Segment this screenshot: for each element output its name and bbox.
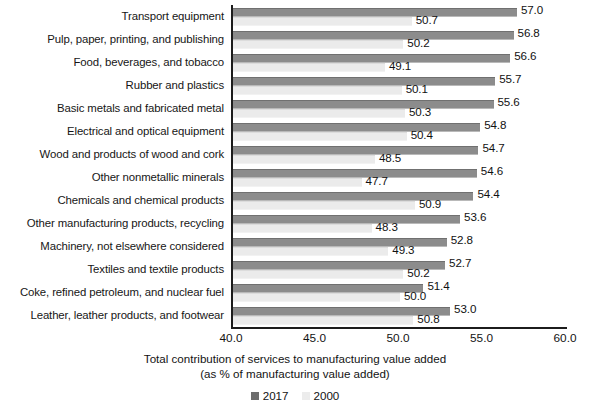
x-axis-title: Total contribution of services to manufa…: [0, 352, 590, 381]
bar-value-label-2000: 50.1: [406, 82, 428, 95]
bar-2000: [233, 247, 388, 256]
bar-value-label-2000: 50.9: [419, 197, 441, 210]
category-label: Other manufacturing products, recycling: [0, 212, 229, 235]
bar-2017: [233, 146, 478, 155]
bar-2000: [233, 293, 400, 302]
bar-value-label-2000: 50.3: [409, 105, 431, 118]
bar-value-label-2017: 57.0: [521, 3, 543, 16]
plot-area: 57.050.756.850.256.649.155.750.155.650.3…: [231, 5, 567, 329]
bar-2000: [233, 17, 412, 26]
bar-value-label-2000: 50.8: [417, 312, 439, 325]
bar-2000: [233, 178, 362, 187]
bar-2017: [233, 123, 480, 132]
bar-group: 52.849.3: [233, 235, 567, 258]
bar-2000: [233, 316, 413, 325]
category-label: Food, beverages, and tobacco: [0, 51, 229, 74]
bar-value-label-2017: 52.8: [451, 233, 473, 246]
bar-2000: [233, 270, 403, 279]
bar-2017: [233, 100, 494, 109]
bar-value-label-2000: 47.7: [366, 174, 388, 187]
bar-2017: [233, 54, 510, 63]
bar-2017: [233, 238, 447, 247]
legend-label: 2017: [263, 389, 289, 402]
bar-value-label-2000: 49.3: [392, 243, 414, 256]
bar-value-label-2017: 56.8: [518, 26, 540, 39]
category-label: Leather, leather products, and footwear: [0, 304, 229, 327]
bar-group: 54.450.9: [233, 189, 567, 212]
category-label: Machinery, not elsewhere considered: [0, 235, 229, 258]
bar-value-label-2017: 55.7: [499, 72, 521, 85]
bar-value-label-2017: 52.7: [449, 256, 471, 269]
bar-value-label-2017: 55.6: [498, 95, 520, 108]
bar-group: 55.750.1: [233, 74, 567, 97]
bar-2017: [233, 31, 514, 40]
category-label: Textiles and textile products: [0, 258, 229, 281]
legend-label: 2000: [314, 389, 340, 402]
legend-item-2017[interactable]: 2017: [251, 389, 289, 402]
bar-group: 55.650.3: [233, 97, 567, 120]
category-label: Electrical and optical equipment: [0, 120, 229, 143]
bar-2000: [233, 132, 407, 141]
x-axis-title-line2: (as % of manufacturing value added): [0, 367, 590, 382]
bar-2017: [233, 169, 477, 178]
bar-value-label-2017: 56.6: [514, 49, 536, 62]
legend-item-2000[interactable]: 2000: [302, 389, 340, 402]
category-label: Basic metals and fabricated metal: [0, 97, 229, 120]
bar-value-label-2017: 51.4: [427, 279, 449, 292]
bar-value-label-2000: 48.5: [379, 151, 401, 164]
bar-group: 56.649.1: [233, 51, 567, 74]
x-tick-label: 50.0: [387, 331, 410, 345]
bar-value-label-2017: 53.0: [454, 302, 476, 315]
bar-2017: [233, 8, 517, 17]
bar-group: 53.050.8: [233, 304, 567, 327]
bar-2000: [233, 201, 415, 210]
bar-group: 54.647.7: [233, 166, 567, 189]
bar-group: 53.648.3: [233, 212, 567, 235]
bar-2000: [233, 224, 372, 233]
x-axis-tick-labels: 40.045.050.055.060.0: [231, 331, 565, 349]
bar-2000: [233, 155, 375, 164]
bar-value-label-2017: 53.6: [464, 210, 486, 223]
bar-value-label-2017: 54.6: [481, 164, 503, 177]
x-tick-label: 55.0: [470, 331, 493, 345]
bar-value-label-2000: 50.2: [407, 36, 429, 49]
bar-2000: [233, 86, 402, 95]
x-tick-label: 40.0: [220, 331, 243, 345]
bar-group: 54.850.4: [233, 120, 567, 143]
bar-value-label-2017: 54.8: [484, 118, 506, 131]
category-label: Chemicals and chemical products: [0, 189, 229, 212]
bar-2017: [233, 284, 423, 293]
bar-value-label-2017: 54.7: [482, 141, 504, 154]
category-label: Transport equipment: [0, 5, 229, 28]
bar-2017: [233, 215, 460, 224]
bar-value-label-2000: 48.3: [376, 220, 398, 233]
bar-value-label-2000: 50.4: [411, 128, 433, 141]
category-label: Rubber and plastics: [0, 74, 229, 97]
legend-swatch-icon: [302, 392, 310, 400]
bar-chart: Transport equipmentPulp, paper, printing…: [0, 0, 590, 413]
bar-value-label-2017: 54.4: [477, 187, 499, 200]
bar-value-label-2000: 50.2: [407, 266, 429, 279]
bar-value-label-2000: 49.1: [389, 59, 411, 72]
bar-group: 56.850.2: [233, 28, 567, 51]
bar-2017: [233, 77, 495, 86]
x-axis-title-line1: Total contribution of services to manufa…: [144, 352, 446, 365]
category-label: Wood and products of wood and cork: [0, 143, 229, 166]
bar-group: 57.050.7: [233, 5, 567, 28]
category-axis-labels: Transport equipmentPulp, paper, printing…: [0, 5, 229, 327]
category-label: Other nonmetallic minerals: [0, 166, 229, 189]
category-label: Pulp, paper, printing, and publishing: [0, 28, 229, 51]
category-label: Coke, refined petroleum, and nuclear fue…: [0, 281, 229, 304]
bar-value-label-2000: 50.0: [404, 289, 426, 302]
bar-value-label-2000: 50.7: [416, 13, 438, 26]
legend-swatch-icon: [251, 392, 259, 400]
bar-group: 51.450.0: [233, 281, 567, 304]
bar-group: 52.750.2: [233, 258, 567, 281]
bar-2000: [233, 109, 405, 118]
x-tick-label: 45.0: [303, 331, 326, 345]
x-tick-label: 60.0: [554, 331, 577, 345]
bar-2000: [233, 40, 403, 49]
chart-legend: 20172000: [0, 389, 590, 402]
bar-group: 54.748.5: [233, 143, 567, 166]
bar-groups: 57.050.756.850.256.649.155.750.155.650.3…: [233, 5, 567, 327]
